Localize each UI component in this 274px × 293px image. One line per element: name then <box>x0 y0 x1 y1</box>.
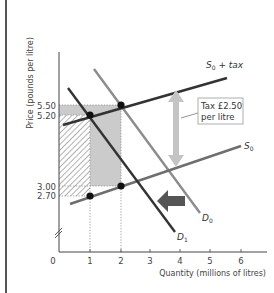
point-1-2-70 <box>86 192 93 199</box>
y-tick-2-70: 2.70 <box>37 191 56 201</box>
tax-note-line1: Tax £2.50 <box>200 101 242 111</box>
y-tick-5-50: 5.50 <box>37 101 56 111</box>
x-tick-5: 5 <box>207 256 212 266</box>
x-tick-6: 6 <box>238 256 243 266</box>
x-tick-3: 3 <box>147 256 152 266</box>
x-tick-2: 2 <box>118 256 123 266</box>
label-s0-plus-tax: S0 + tax <box>206 60 244 71</box>
point-1-5-20 <box>86 111 93 118</box>
hatched-area-lower <box>59 186 90 196</box>
x-tick-0: 0 <box>50 256 55 266</box>
label-s0: S0 <box>244 141 254 152</box>
label-d1: D1 <box>177 232 188 243</box>
y-axis-title: Price (pounds per litre) <box>26 37 35 129</box>
x-tick-1: 1 <box>87 256 92 266</box>
point-2-5-50 <box>117 101 124 108</box>
x-tick-4: 4 <box>177 256 182 266</box>
demand-shift-left-arrow-icon <box>157 190 185 212</box>
y-tick-5-20: 5.20 <box>37 111 56 121</box>
chart: 0 1 2 3 4 5 6 5.50 5.20 3.00 2.70 Quanti… <box>0 0 274 293</box>
tax-double-arrow-icon <box>168 90 184 167</box>
tax-note-leader-line <box>181 113 198 118</box>
tax-note-line2: per litre <box>201 112 234 122</box>
label-d0: D0 <box>202 213 213 224</box>
point-2-3-00 <box>117 182 124 189</box>
x-axis-title: Quantity (millions of litres) <box>159 269 266 278</box>
